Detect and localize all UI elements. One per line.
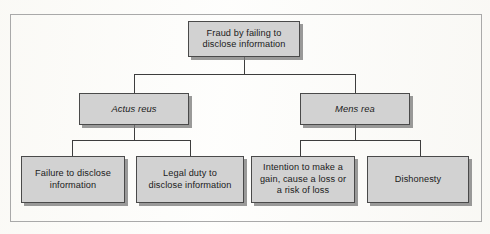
figure-canvas: Fraud by failing to disclose information…: [0, 0, 490, 234]
connector-actus-reus-stem: [134, 125, 135, 141]
connector-actus-reus-bar: [72, 140, 191, 141]
connector-root-stem: [244, 57, 245, 75]
connector-actus-reus-to-failure: [72, 140, 73, 156]
node-label: Actus reus: [108, 103, 159, 115]
node-dishonesty[interactable]: Dishonesty: [367, 156, 469, 203]
connector-mens-rea-to-dishonesty: [420, 140, 421, 156]
node-label: Mens rea: [332, 103, 378, 115]
connector-root-bar: [134, 74, 356, 75]
node-label: Legal duty to disclose information: [145, 168, 234, 191]
node-label: Intention to make a gain, cause a loss o…: [257, 162, 349, 197]
connector-mens-rea-bar: [300, 140, 421, 141]
node-intention-to-make-a-gain[interactable]: Intention to make a gain, cause a loss o…: [251, 156, 355, 203]
node-mens-rea[interactable]: Mens rea: [300, 93, 410, 125]
node-label: Dishonesty: [392, 174, 444, 186]
connector-mens-rea-to-intention: [300, 140, 301, 156]
node-failure-to-disclose-information[interactable]: Failure to disclose information: [21, 156, 125, 203]
connector-mens-rea-stem: [355, 125, 356, 141]
node-label: Fraud by failing to disclose information: [199, 28, 288, 51]
connector-actus-reus-to-legal-duty: [190, 140, 191, 156]
connector-root-to-actus-reus: [134, 74, 135, 93]
node-label: Failure to disclose information: [32, 168, 114, 191]
connector-root-to-mens-rea: [355, 74, 356, 93]
node-actus-reus[interactable]: Actus reus: [79, 93, 189, 125]
node-fraud-by-failing-to-disclose-information[interactable]: Fraud by failing to disclose information: [188, 21, 300, 57]
node-legal-duty-to-disclose-information[interactable]: Legal duty to disclose information: [136, 156, 244, 203]
